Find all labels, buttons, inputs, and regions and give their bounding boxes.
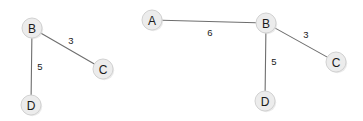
edge-right-graph-A-B xyxy=(162,20,256,22)
node-left-graph-D[interactable]: D xyxy=(21,95,42,116)
node-left-graph-B[interactable]: B xyxy=(22,18,43,39)
node-label: C xyxy=(332,56,341,70)
node-label: B xyxy=(28,22,36,36)
edge-right-graph-B-C xyxy=(275,28,328,57)
node-right-graph-B[interactable]: B xyxy=(256,13,277,34)
edges-layer xyxy=(31,20,327,95)
node-right-graph-D[interactable]: D xyxy=(255,91,276,112)
diagram-canvas: 35635 BCDABCD xyxy=(0,0,363,121)
nodes-layer: BCDABCD xyxy=(21,10,347,116)
edge-right-graph-B-D xyxy=(265,33,266,91)
node-label: C xyxy=(99,63,108,77)
node-label: D xyxy=(27,99,36,113)
edge-weight-label: 5 xyxy=(271,56,276,67)
edge-weight-label: 6 xyxy=(207,27,212,38)
edge-left-graph-B-D xyxy=(31,38,32,95)
edge-weight-label: 3 xyxy=(303,29,308,40)
node-label: D xyxy=(261,95,270,109)
node-right-graph-A[interactable]: A xyxy=(142,10,163,31)
edge-weight-label: 3 xyxy=(68,35,73,46)
node-left-graph-C[interactable]: C xyxy=(93,59,114,80)
node-label: B xyxy=(262,17,270,31)
edge-weight-label: 5 xyxy=(37,61,42,72)
node-label: A xyxy=(148,14,156,28)
node-right-graph-C[interactable]: C xyxy=(326,52,347,73)
graph-svg: 35635 BCDABCD xyxy=(0,0,363,121)
